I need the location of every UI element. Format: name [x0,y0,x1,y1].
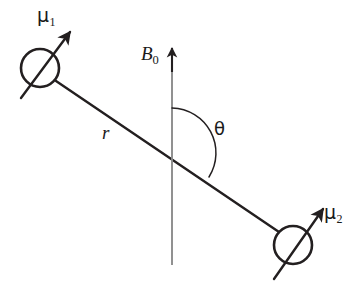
b0-symbol: B [141,43,153,64]
dipolar-coupling-figure: μ1 μ2 B0 r θ [0,0,363,295]
mu-1-subscript: 1 [50,15,56,29]
mu-1-label: μ1 [37,6,55,25]
magnetic-field-label: B0 [141,44,159,63]
theta-angle-arc [172,108,216,177]
mu-2-subscript: 2 [337,212,343,226]
mu-2-label: μ2 [324,203,342,222]
theta-angle-label: θ [214,120,225,138]
mu-1-symbol: μ [37,4,49,26]
internuclear-distance-line [56,81,279,232]
distance-label: r [102,123,109,142]
diagram-canvas [0,0,363,295]
b0-subscript: 0 [153,53,159,67]
mu-2-symbol: μ [324,201,336,223]
